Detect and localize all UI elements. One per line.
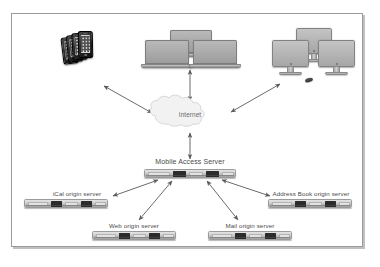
addressbook-origin-server-rack xyxy=(268,199,352,208)
network-diagram: Internet xyxy=(0,0,380,267)
web-origin-server-label: Web origin server xyxy=(84,222,184,229)
mobile-access-server-rack xyxy=(144,169,236,178)
addressbook-origin-server-label: Address Book origin server xyxy=(256,190,366,197)
web-origin-server-rack xyxy=(92,231,176,240)
internet-label: Internet xyxy=(150,111,230,118)
ical-origin-server-rack xyxy=(24,199,108,208)
mail-origin-server-rack xyxy=(208,231,292,240)
ical-origin-server-label: iCal origin server xyxy=(22,190,132,197)
mail-origin-server-label: Mail origin server xyxy=(200,222,300,229)
mobile-access-server-label: Mobile Access Server xyxy=(130,158,250,165)
